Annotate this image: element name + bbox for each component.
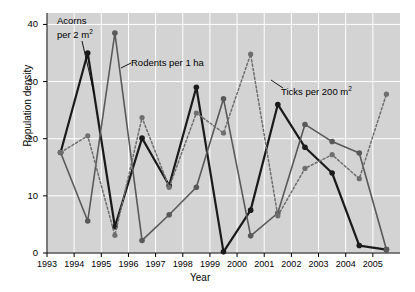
- data-point: [248, 233, 254, 239]
- data-point: [329, 170, 335, 176]
- y-axis-title: Population density: [22, 46, 33, 166]
- data-point: [194, 84, 200, 90]
- data-point: [357, 176, 362, 181]
- data-point: [248, 52, 253, 57]
- data-point: [384, 247, 390, 253]
- data-point: [302, 122, 308, 128]
- data-point: [302, 166, 307, 171]
- data-point: [221, 249, 227, 255]
- data-point: [356, 243, 362, 249]
- data-point: [139, 238, 145, 244]
- annotation-ticks-text: Ticks per 200 m: [281, 86, 348, 97]
- annotation-acorns-line1: Acorns: [57, 15, 87, 26]
- x-tick-label: 2005: [356, 260, 390, 269]
- data-point: [85, 133, 90, 138]
- data-point: [194, 184, 200, 190]
- data-point: [167, 185, 172, 190]
- y-tick-label: 10: [8, 191, 38, 200]
- y-tick-label: 0: [8, 248, 38, 257]
- data-point: [112, 30, 118, 36]
- data-point: [166, 212, 172, 218]
- data-point: [329, 139, 335, 145]
- annotation-ticks-exponent: 2: [348, 85, 352, 92]
- data-point: [302, 144, 308, 150]
- series-layer: [58, 30, 389, 254]
- data-point: [221, 96, 227, 102]
- annotation-acorns-line2: per 2 m: [57, 29, 89, 40]
- plot-canvas: [0, 0, 415, 292]
- data-point: [139, 135, 145, 141]
- data-point: [85, 218, 91, 224]
- data-point: [194, 110, 199, 115]
- data-point: [112, 233, 117, 238]
- annotation-rodents: Rodents per 1 ha: [131, 57, 204, 68]
- data-point: [58, 150, 63, 155]
- annotation-acorns-exponent: 2: [89, 28, 93, 35]
- annotation-ticks: Ticks per 200 m2: [281, 83, 352, 97]
- data-point: [221, 130, 226, 135]
- data-point: [384, 92, 389, 97]
- data-point: [356, 150, 362, 156]
- data-point: [275, 213, 280, 218]
- data-point: [330, 152, 335, 157]
- x-axis-title: Year: [190, 272, 210, 283]
- data-point: [139, 115, 144, 120]
- data-point: [275, 102, 281, 108]
- data-point: [248, 207, 254, 213]
- annotation-acorns: Acorns per 2 m2: [57, 15, 93, 40]
- y-tick-label: 40: [8, 19, 38, 28]
- axis-tick-marks: [43, 24, 373, 257]
- annotation-rodents-text: Rodents per 1 ha: [131, 57, 204, 68]
- chart-figure: 010203040 199319941995199619971998199920…: [0, 0, 415, 292]
- data-point: [85, 50, 91, 56]
